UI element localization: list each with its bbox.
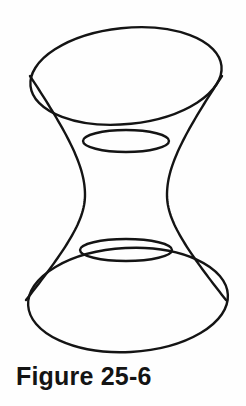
waist-upper-rim xyxy=(83,130,169,152)
figure-caption: Figure 25-6 xyxy=(16,360,230,394)
figure-page: Figure 25-6 xyxy=(0,0,246,406)
hyperboloid-figure xyxy=(0,0,246,406)
silhouette-right xyxy=(167,76,226,300)
